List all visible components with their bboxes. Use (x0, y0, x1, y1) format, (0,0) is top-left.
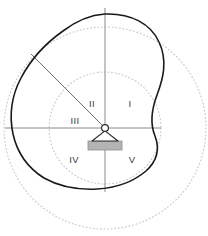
quadrant-label-iii: III (71, 115, 80, 126)
quadrant-label-v: V (129, 154, 136, 165)
canvas-background (0, 0, 208, 236)
quadrant-label-ii: II (89, 98, 95, 109)
quadrant-label-iv: IV (69, 154, 79, 165)
quadrant-label-i: I (129, 98, 132, 109)
diagram-canvas: IIIIIIIVV (0, 0, 208, 236)
pivot-hinge-circle (102, 125, 109, 132)
cam-diagram-figure: IIIIIIIVV (0, 0, 208, 236)
pivot-base-block (88, 141, 122, 150)
